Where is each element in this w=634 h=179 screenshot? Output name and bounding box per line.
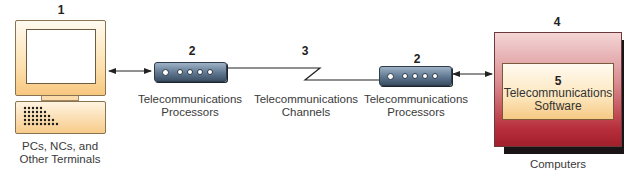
node-4-label: Computers — [508, 158, 608, 171]
led-icon — [187, 69, 193, 75]
node-3-label: Telecommunications Channels — [246, 93, 366, 119]
node-5-label: Telecommunications Software — [502, 87, 614, 113]
node-3-label-line-2: Channels — [246, 106, 366, 119]
processor-icon-left — [154, 62, 227, 82]
node-3-number: 3 — [295, 44, 315, 58]
keyboard-keys-icon — [23, 106, 63, 128]
node-2b-label: Telecommunications Processors — [356, 93, 476, 119]
node-2b-label-line-1: Telecommunications — [356, 93, 476, 106]
node-2a-label: Telecommunications Processors — [130, 93, 250, 119]
node-1-number: 1 — [51, 3, 71, 17]
node-4-number: 4 — [547, 15, 567, 29]
led-icon — [162, 69, 169, 76]
led-icon — [432, 73, 438, 79]
led-icon — [197, 69, 203, 75]
channel-line — [226, 68, 396, 80]
led-icon — [177, 69, 183, 75]
node-2b-label-line-2: Processors — [356, 106, 476, 119]
node-2a-number: 2 — [182, 44, 202, 58]
terminal-screen — [26, 29, 96, 84]
node-1-label-line-1: PCs, NCs, and — [10, 140, 110, 153]
node-5-label-line-2: Software — [502, 100, 614, 113]
led-icon — [207, 69, 213, 75]
node-2a-label-line-2: Processors — [130, 106, 250, 119]
processor-icon-right — [379, 66, 452, 86]
led-icon — [412, 73, 418, 79]
node-1-label: PCs, NCs, and Other Terminals — [10, 140, 110, 166]
led-icon — [387, 73, 394, 80]
node-1-label-line-2: Other Terminals — [10, 153, 110, 166]
led-icon — [422, 73, 428, 79]
led-icon — [402, 73, 408, 79]
node-2a-label-line-1: Telecommunications — [130, 93, 250, 106]
node-2b-number: 2 — [407, 52, 427, 66]
node-3-label-line-1: Telecommunications — [246, 93, 366, 106]
